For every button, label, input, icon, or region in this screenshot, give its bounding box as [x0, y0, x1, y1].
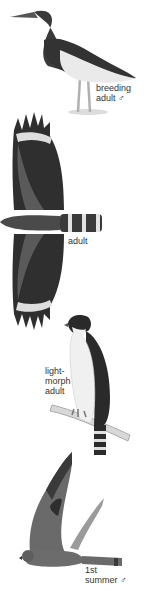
- figure-label-heron: breeding adult ♂: [96, 83, 131, 103]
- hawk-perched-illustration: [0, 305, 144, 460]
- falcon-flight-illustration: [0, 450, 144, 609]
- figure-label-eagle: adult: [68, 236, 88, 246]
- figure-label-hawk: light- morph adult: [45, 366, 71, 396]
- figure-label-falcon: 1st summer ♂: [85, 565, 127, 585]
- eagle-flight-illustration: [0, 110, 144, 330]
